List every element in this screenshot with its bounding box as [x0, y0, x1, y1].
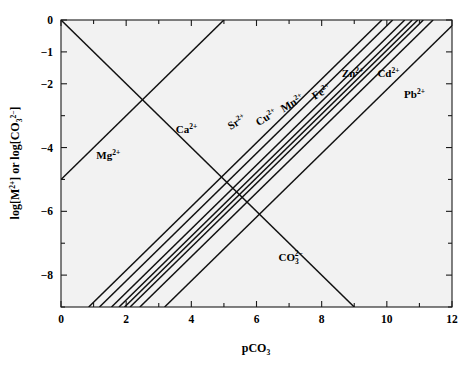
x-tick-label: 8: [319, 313, 325, 325]
y-tick-labels: 0−1−2−4−6−8: [41, 14, 54, 281]
x-tick-label: 2: [123, 313, 129, 325]
x-tick-label: 12: [446, 313, 458, 325]
x-tick-labels: 024681012: [58, 313, 458, 325]
y-tick-label: −2: [41, 78, 54, 90]
x-axis-title: pCO3: [242, 341, 271, 357]
x-tick-label: 10: [381, 313, 393, 325]
chart-figure: 024681012 0−1−2−4−6−8 Mg2+Ca2+Sr2+Cu2+Mn…: [0, 0, 475, 376]
x-tick-label: 6: [254, 313, 260, 325]
y-axis-title: log[M2+] or log[CO32−]: [8, 107, 24, 220]
y-tick-label: −1: [41, 46, 54, 58]
x-tick-label: 0: [58, 313, 64, 325]
y-tick-label: −8: [41, 269, 54, 281]
carbonate-solubility-plot: 024681012 0−1−2−4−6−8 Mg2+Ca2+Sr2+Cu2+Mn…: [0, 0, 475, 376]
y-tick-label: −4: [41, 142, 54, 154]
plot-frame: [61, 20, 452, 307]
x-tick-label: 4: [188, 313, 194, 325]
y-tick-label: 0: [47, 14, 53, 26]
y-tick-label: −6: [41, 205, 54, 217]
